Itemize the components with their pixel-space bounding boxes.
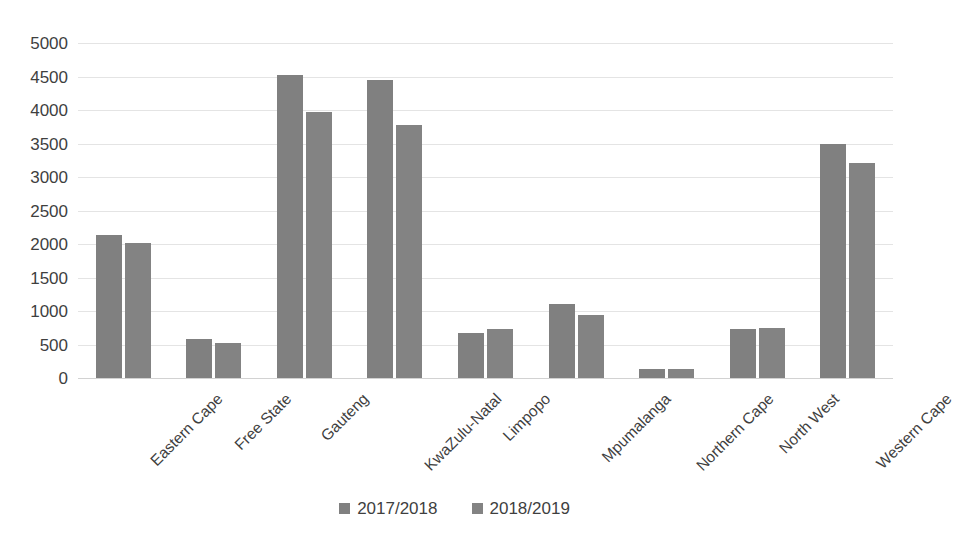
bar-group (712, 43, 803, 378)
bar-group (350, 43, 441, 378)
y-axis-tick-label: 1000 (10, 303, 68, 320)
x-axis-label-cell: Limpopo (440, 378, 531, 488)
y-axis-tick-label: 1500 (10, 269, 68, 286)
bar-group (531, 43, 622, 378)
legend-swatch-icon (339, 503, 350, 514)
y-axis-tick-label: 4000 (10, 102, 68, 119)
bar[interactable] (820, 144, 846, 378)
x-axis-category-labels: Eastern CapeFree StateGautengKwaZulu-Nat… (78, 378, 893, 488)
x-axis-label-cell: Western Cape (803, 378, 894, 488)
x-axis-label-cell: North West (712, 378, 803, 488)
legend-label: 2018/2019 (490, 500, 570, 517)
y-axis-tick-label: 500 (10, 336, 68, 353)
bar[interactable] (668, 369, 694, 378)
x-axis-label-cell: Mpumalanga (531, 378, 622, 488)
x-axis-category-label: Western Cape (873, 390, 955, 473)
bar-groups (78, 43, 893, 378)
bar[interactable] (277, 75, 303, 378)
chart-legend: 2017/20182018/2019 (0, 500, 909, 517)
bar[interactable] (730, 329, 756, 378)
bar[interactable] (849, 163, 875, 378)
bar-group (259, 43, 350, 378)
y-axis-tick-label: 3000 (10, 169, 68, 186)
x-axis-label-cell: Free State (169, 378, 260, 488)
bar[interactable] (549, 304, 575, 378)
bar[interactable] (306, 112, 332, 378)
bar[interactable] (578, 315, 604, 378)
y-axis-tick-label: 5000 (10, 35, 68, 52)
bar[interactable] (639, 369, 665, 378)
bar[interactable] (487, 329, 513, 378)
x-axis-label-cell: Eastern Cape (78, 378, 169, 488)
bar[interactable] (215, 343, 241, 378)
y-axis-tick-label: 2500 (10, 202, 68, 219)
x-axis-label-cell: Northern Cape (621, 378, 712, 488)
bar-group (621, 43, 712, 378)
plot-area: 5000450040003500300025002000150010005000 (78, 43, 893, 378)
bar[interactable] (186, 339, 212, 378)
legend-item[interactable]: 2017/2018 (339, 500, 437, 517)
legend-label: 2017/2018 (357, 500, 437, 517)
bar-group (78, 43, 169, 378)
bar[interactable] (396, 125, 422, 378)
y-axis-tick-label: 3500 (10, 135, 68, 152)
y-axis-tick-label: 2000 (10, 236, 68, 253)
bar[interactable] (125, 243, 151, 378)
x-axis-label-cell: KwaZulu-Natal (350, 378, 441, 488)
y-axis-tick-label: 0 (10, 370, 68, 387)
bar[interactable] (96, 235, 122, 378)
legend-item[interactable]: 2018/2019 (472, 500, 570, 517)
bar[interactable] (367, 80, 393, 378)
bar-group (803, 43, 894, 378)
bar-group (440, 43, 531, 378)
bar[interactable] (759, 328, 785, 378)
bar-group (169, 43, 260, 378)
bar[interactable] (458, 333, 484, 378)
y-axis-tick-label: 4500 (10, 68, 68, 85)
legend-swatch-icon (472, 503, 483, 514)
x-axis-label-cell: Gauteng (259, 378, 350, 488)
